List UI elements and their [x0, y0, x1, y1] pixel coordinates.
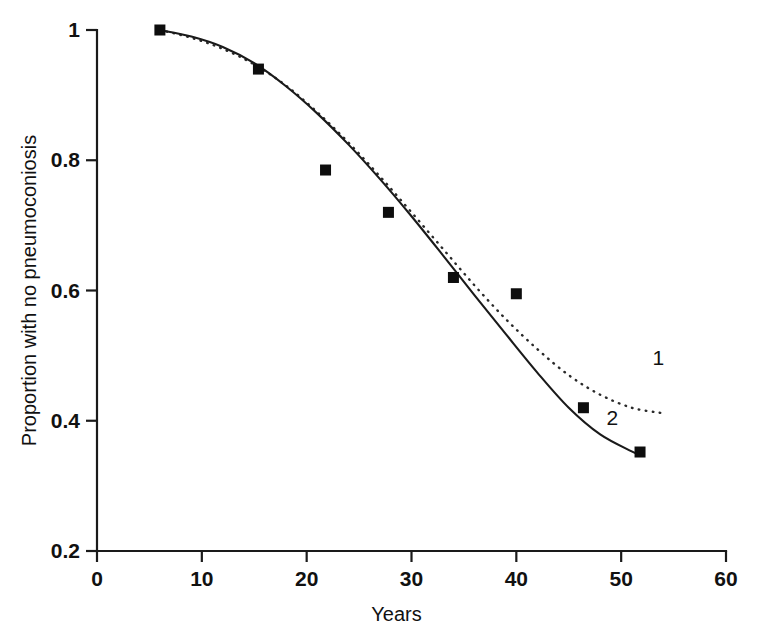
curve-1-label: 1: [653, 346, 665, 369]
data-point-marker: [578, 402, 589, 413]
y-tick-label: 0.2: [51, 539, 80, 562]
data-point-marker: [635, 447, 646, 458]
curve-2-label: 2: [606, 406, 618, 429]
x-tick-label: 0: [91, 567, 103, 590]
y-axis-title: Proportion with no pneumoconiosis: [18, 135, 40, 446]
data-point-marker: [383, 207, 394, 218]
x-tick-label: 10: [190, 567, 213, 590]
x-tick-label: 20: [295, 567, 318, 590]
x-tick-label: 30: [400, 567, 423, 590]
data-point-marker: [320, 165, 331, 176]
curve-2-solid: [160, 30, 641, 455]
y-tick-label: 1: [68, 18, 80, 41]
y-axis-tick-labels: 0.20.40.60.81: [51, 18, 81, 562]
x-tick-label: 60: [714, 567, 737, 590]
data-point-marker: [253, 64, 264, 75]
series-group: [160, 30, 661, 455]
data-point-markers: [154, 25, 645, 458]
x-axis-title: Years: [371, 603, 421, 625]
y-tick-label: 0.4: [51, 409, 81, 432]
x-axis-ticks: [97, 551, 726, 562]
data-point-marker: [511, 288, 522, 299]
x-axis-tick-labels: 0102030405060: [91, 567, 738, 590]
data-point-marker: [154, 25, 165, 36]
y-tick-label: 0.6: [51, 279, 80, 302]
chart-figure: 0.20.40.60.81 0102030405060 1 2 Years Pr…: [0, 0, 758, 633]
x-tick-label: 50: [609, 567, 632, 590]
chart-canvas: 0.20.40.60.81 0102030405060 1 2 Years Pr…: [0, 0, 758, 633]
x-tick-label: 40: [505, 567, 528, 590]
y-tick-label: 0.8: [51, 148, 81, 171]
curve-1-dotted: [160, 30, 661, 413]
y-axis-ticks: [86, 30, 97, 551]
data-point-marker: [448, 272, 459, 283]
axes-group: [86, 30, 726, 562]
